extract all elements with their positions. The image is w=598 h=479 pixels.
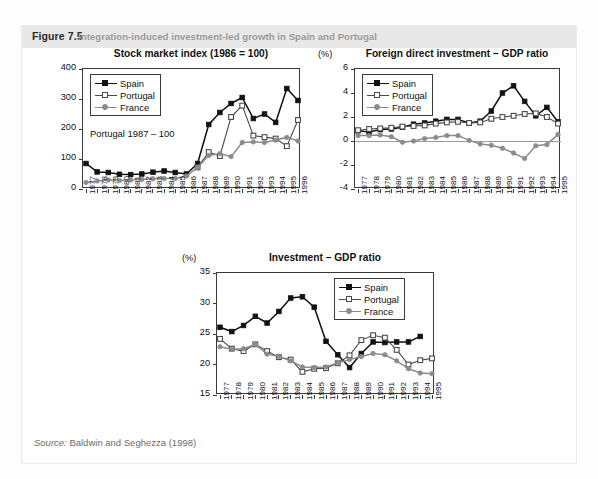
x-tick-label: 1988 [483,176,492,194]
data-point-spain [229,329,234,334]
y-tick-label: -2 [316,158,348,168]
data-point-portugal [389,125,394,130]
data-point-spain [206,122,211,127]
chart-fdi-gdp-ratio: Foreign direct investment – GDP ratio(%)… [318,48,568,244]
legend-symbol-france [339,305,361,317]
x-tick-mark [396,395,397,399]
data-point-spain [406,340,411,345]
data-point-portugal [300,369,305,374]
x-tick-label: 1986 [328,382,337,400]
x-tick-label: 1988 [211,176,220,194]
legend-symbol-spain [339,281,361,293]
legend-marker [102,104,108,110]
x-tick-mark [302,395,303,399]
data-point-portugal [444,120,449,125]
x-tick-label: 1992 [399,382,408,400]
data-point-portugal [478,120,483,125]
x-tick-label: 1991 [516,176,525,194]
data-point-france [389,135,393,139]
source-label: Source: [34,437,67,448]
x-tick-mark [231,395,232,399]
data-point-portugal [400,124,405,129]
data-point-portugal [500,115,505,120]
x-tick-label: 1980 [258,382,267,400]
data-point-france [312,365,316,369]
data-point-spain [288,296,293,301]
data-point-france [406,367,410,371]
x-tick-label: 1977 [88,176,97,194]
data-point-spain [347,365,352,370]
data-point-portugal [229,115,234,120]
x-tick-label: 1978 [234,382,243,400]
legend-label-france: France [392,102,421,113]
legend-symbol-france [367,101,389,113]
data-point-spain [383,340,388,345]
x-tick-label: 1978 [100,176,109,194]
data-point-portugal [394,347,399,352]
data-point-portugal [522,112,527,117]
x-tick-label: 1993 [538,176,547,194]
y-tick-label: 4 [316,86,348,96]
figure-page: Figure 7.5 Integration-induced investmen… [0,0,598,479]
data-point-spain [324,339,329,344]
legend-label-spain: Spain [392,78,416,89]
data-point-france [296,139,300,143]
x-tick-label: 1978 [372,176,381,194]
y-tick-label: 6 [316,62,348,72]
chart-title: Stock market index (1986 = 100) [48,48,334,59]
data-point-portugal [544,115,549,120]
source-citation: Baldwin and Seghezza (1998) [69,437,196,448]
data-point-portugal [556,121,561,126]
x-tick-label: 1977 [360,176,369,194]
data-point-france [288,359,292,363]
data-point-spain [106,170,111,175]
x-tick-mark [408,395,409,399]
legend-row-france: France [367,101,427,113]
x-tick-label: 1992 [527,176,536,194]
legend-marker [102,92,108,98]
data-point-france [400,140,404,144]
axis-unit-label: (%) [318,49,332,59]
data-point-france [241,346,245,350]
data-point-france [383,353,387,357]
data-point-portugal [511,113,516,118]
data-point-france [378,133,382,137]
data-point-spain [489,109,494,114]
data-point-spain [95,170,100,175]
x-tick-label: 1994 [278,176,287,194]
data-point-france [467,138,471,142]
data-point-france [534,144,538,148]
legend-symbol-spain [95,77,117,89]
data-point-france [500,146,504,150]
legend-marker [374,80,380,86]
legend-row-spain: Spain [339,281,399,293]
data-point-france [411,139,415,143]
data-point-france [556,132,560,136]
x-tick-label: 1980 [122,176,131,194]
data-point-france [418,371,422,375]
data-point-france [422,136,426,140]
legend-label-france: France [364,306,393,317]
data-point-portugal [418,358,423,363]
legend-label-portugal: Portugal [120,90,155,101]
data-point-france [285,135,289,139]
x-tick-mark [337,395,338,399]
x-tick-label: 1977 [222,382,231,400]
legend-row-spain: Spain [95,77,155,89]
data-point-france [277,354,281,358]
y-tick-label: 15 [178,388,210,398]
y-tick-label: -4 [316,182,348,192]
legend-marker [102,80,108,86]
data-point-france [336,360,340,364]
data-point-spain [522,99,527,104]
x-tick-label: 1982 [416,176,425,194]
data-point-france [545,142,549,146]
data-point-france [218,151,222,155]
axis-unit-label: (%) [182,253,196,263]
data-point-spain [273,120,278,125]
x-tick-label: 1990 [505,176,514,194]
data-point-france [230,347,234,351]
legend-marker [346,296,352,302]
x-tick-label: 1991 [245,176,254,194]
x-tick-mark [290,395,291,399]
